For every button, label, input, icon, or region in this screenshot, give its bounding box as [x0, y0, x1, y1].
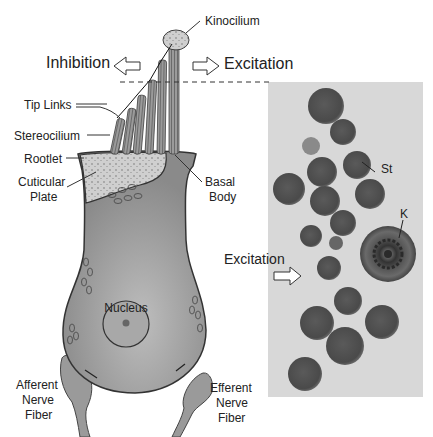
kinocilium-profile: [360, 226, 416, 282]
cuticular-plate-label-2: Plate: [30, 190, 58, 204]
efferent-label-2: Nerve: [216, 396, 248, 410]
micrograph-panel: St K Excitation: [224, 82, 423, 397]
afferent-label-1: Afferent: [16, 378, 58, 392]
cuticular-plate-label-1: Cuticular: [18, 175, 65, 189]
k-label: K: [400, 207, 408, 221]
st-label: St: [381, 162, 393, 176]
nucleus-label: Nucleus: [104, 301, 147, 315]
excitation-label-micrograph: Excitation: [224, 251, 285, 267]
efferent-nerve-fiber: [172, 373, 213, 437]
hair-cell-svg: St K Excitation: [0, 0, 433, 437]
basal-body-label-1: Basal: [205, 175, 235, 189]
kinocilium-shaft: [169, 40, 179, 154]
kinocilium-bulb: [163, 30, 189, 50]
afferent-label-2: Nerve: [22, 393, 54, 407]
excitation-label-top: Excitation: [224, 55, 293, 72]
hair-cell-drawing: Nucleus Inhibition E: [14, 14, 293, 437]
stereocilium-label: Stereocilium: [14, 129, 80, 143]
basal-body-label-2: Body: [209, 190, 236, 204]
efferent-label-3: Fiber: [218, 411, 245, 425]
hair-cell-figure: St K Excitation: [0, 0, 433, 437]
afferent-label-3: Fiber: [25, 408, 52, 422]
excitation-arrow-top-icon: [193, 57, 219, 75]
tip-links-label: Tip Links: [24, 98, 72, 112]
nucleolus: [123, 320, 130, 327]
kinocilium-label: Kinocilium: [205, 14, 260, 28]
inhibition-label: Inhibition: [46, 54, 110, 71]
hair-bundle: [110, 40, 179, 155]
efferent-label-1: Efferent: [210, 381, 252, 395]
rootlet-label: Rootlet: [24, 152, 63, 166]
inhibition-arrow-icon: [114, 57, 140, 75]
